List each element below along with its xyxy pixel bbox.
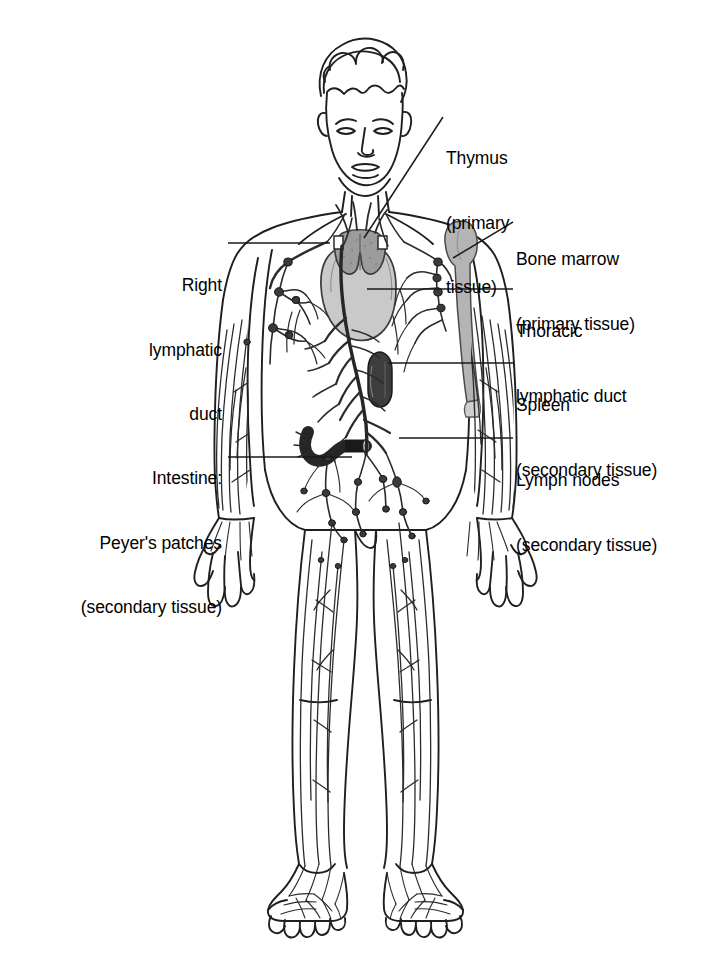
label-spleen-line-1: Spleen [516,395,657,417]
label-thymus: Thymus (primary tissue) [446,105,509,342]
label-right-lymphatic-duct-line-2: lymphatic [24,340,222,362]
label-thymus-line-3: tissue) [446,277,509,299]
label-lymph-nodes-line-2: (secondary tissue) [516,535,657,557]
label-intestine-line-1: Intestine: [10,468,222,490]
lymph-node-left-arm [244,339,250,345]
label-lymph-nodes: Lymph nodes (secondary tissue) [516,427,657,599]
label-bone-marrow-line-1: Bone marrow [516,249,635,271]
label-intestine-line-3: (secondary tissue) [10,597,222,619]
label-thymus-line-2: (primary [446,213,509,235]
label-right-lymphatic-duct-line-1: Right [24,275,222,297]
label-thymus-line-1: Thymus [446,148,509,170]
label-right-lymphatic-duct-line-3: duct [24,404,222,426]
lymphatic-system-figure: Thymus (primary tissue) Bone marrow (pri… [0,0,719,962]
label-lymph-nodes-line-1: Lymph nodes [516,470,657,492]
label-intestine-line-2: Peyer's patches [10,533,222,555]
intestine-peyers-patches-organ [294,432,369,467]
spleen-organ [368,352,392,407]
label-intestine-peyers-patches: Intestine: Peyer's patches (secondary ti… [10,425,222,662]
label-thoracic-duct-line-1: Thoracic [516,321,626,343]
